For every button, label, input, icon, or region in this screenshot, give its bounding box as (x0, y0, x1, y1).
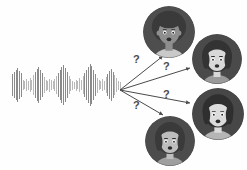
speaker-avatar-2 (192, 34, 242, 84)
illustration-canvas: ???? (0, 0, 247, 170)
arrow-to-speaker-1 (120, 56, 163, 90)
question-mark-2: ? (163, 61, 170, 72)
arrow-to-speaker-2 (120, 68, 190, 90)
prediction-arrows (0, 0, 247, 170)
question-mark-1: ? (133, 54, 140, 65)
speaker-avatar-3 (192, 88, 244, 140)
speaker-avatar-4 (145, 116, 195, 166)
speaker-avatar-1 (143, 6, 195, 58)
question-mark-3: ? (163, 89, 170, 100)
question-mark-4: ? (133, 100, 140, 111)
